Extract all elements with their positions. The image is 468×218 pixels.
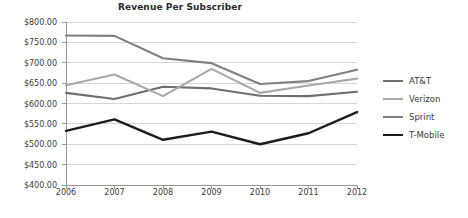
y-tick-label: $600.00 xyxy=(24,99,57,108)
x-tick-label: 2006 xyxy=(56,188,76,197)
y-axis: $800.00$750.00$700.00$650.00$600.00$550.… xyxy=(0,22,62,185)
legend-label: Sprint xyxy=(409,112,434,122)
legend-item-sprint[interactable]: Sprint xyxy=(383,108,468,126)
legend-swatch-icon xyxy=(383,134,403,136)
y-tick-label: $650.00 xyxy=(24,79,57,88)
legend-label: Verizon xyxy=(409,94,440,104)
legend-swatch-icon xyxy=(383,98,403,100)
x-tick-label: 2011 xyxy=(298,188,318,197)
series-line-verizon xyxy=(66,69,357,96)
x-tick-label: 2007 xyxy=(104,188,124,197)
series-line-t-mobile xyxy=(66,112,357,144)
y-tick-label: $450.00 xyxy=(24,160,57,169)
revenue-per-subscriber-chart: Revenue Per Subscriber $800.00$750.00$70… xyxy=(0,0,468,218)
y-tick-label: $500.00 xyxy=(24,140,57,149)
legend-swatch-icon xyxy=(383,116,403,118)
legend-label: T-Mobile xyxy=(409,130,444,140)
x-tick-label: 2010 xyxy=(250,188,270,197)
legend-label: AT&T xyxy=(409,76,431,86)
x-tick-label: 2012 xyxy=(347,188,367,197)
legend-item-verizon[interactable]: Verizon xyxy=(383,90,468,108)
x-tick-label: 2009 xyxy=(201,188,221,197)
y-tick-label: $550.00 xyxy=(24,119,57,128)
y-tick-label: $750.00 xyxy=(24,38,57,47)
series-line-at-t xyxy=(66,87,357,99)
chart-legend: AT&TVerizonSprintT-Mobile xyxy=(383,72,468,144)
series-lines xyxy=(66,22,357,185)
y-tick-label: $800.00 xyxy=(24,18,57,27)
legend-swatch-icon xyxy=(383,80,403,82)
x-axis: 2006200720082009201020112012 xyxy=(66,188,357,206)
chart-title: Revenue Per Subscriber xyxy=(0,2,360,12)
y-tick-label: $400.00 xyxy=(24,181,57,190)
x-tick-label: 2008 xyxy=(153,188,173,197)
plot-area xyxy=(66,22,357,185)
y-tick-label: $700.00 xyxy=(24,58,57,67)
legend-item-at-t[interactable]: AT&T xyxy=(383,72,468,90)
legend-item-t-mobile[interactable]: T-Mobile xyxy=(383,126,468,144)
